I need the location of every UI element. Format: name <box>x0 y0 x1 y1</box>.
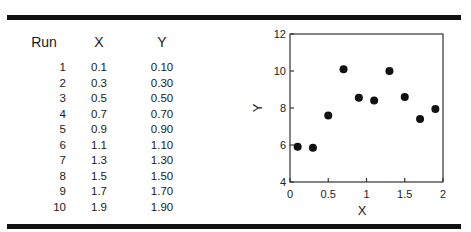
x-tick-label: 0.5 <box>321 188 336 200</box>
y-tick-label: 12 <box>274 28 286 40</box>
data-point <box>416 115 424 123</box>
data-point <box>355 94 363 102</box>
plot-axes: 00.511.524681012 <box>274 28 446 200</box>
data-point <box>385 67 393 75</box>
x-tick-label: 1 <box>363 188 369 200</box>
data-point <box>294 143 302 151</box>
y-tick-label: 6 <box>280 139 286 151</box>
data-point <box>431 105 439 113</box>
data-point <box>309 144 317 152</box>
y-axis-label: Y <box>250 103 265 112</box>
x-axis-label: X <box>358 203 367 218</box>
plot-frame <box>290 34 443 182</box>
y-tick-label: 10 <box>274 65 286 77</box>
data-point <box>401 93 409 101</box>
y-tick-label: 8 <box>280 102 286 114</box>
x-tick-label: 1.5 <box>397 188 412 200</box>
scatter-chart: 00.511.524681012 X Y <box>0 0 471 232</box>
bottom-rule <box>7 224 461 229</box>
data-point <box>340 65 348 73</box>
x-tick-label: 0 <box>287 188 293 200</box>
data-point <box>370 97 378 105</box>
data-points <box>294 65 440 152</box>
data-point <box>324 111 332 119</box>
y-tick-label: 4 <box>280 176 286 188</box>
x-tick-label: 2 <box>440 188 446 200</box>
